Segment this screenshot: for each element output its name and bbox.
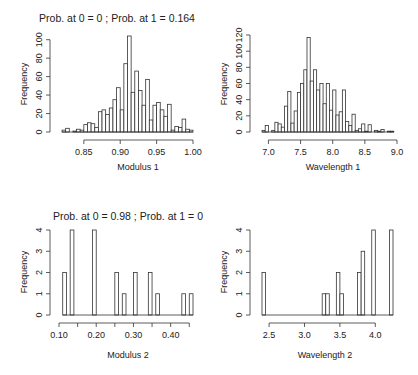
histogram-bar [133,273,137,316]
histogram-bar [146,79,150,132]
x-axis-label: Modulus 1 [117,162,159,172]
y-tick-label: 0 [34,129,44,134]
histogram-bar [352,114,355,132]
histogram-bar [294,111,297,132]
histogram-bar [323,104,326,132]
histogram-bar [113,100,117,132]
histogram-bar [138,90,142,132]
histogram-bar [63,273,67,316]
y-tick-label: 4 [234,227,244,232]
x-axis-label: Modulus 2 [107,350,149,360]
y-tick-label: 80 [234,62,244,72]
histogram-bar [333,90,336,132]
histogram-bar [339,112,342,132]
histogram-bar [77,129,81,132]
histogram-bar [313,70,316,132]
y-axis-label: Frequency [219,250,229,293]
histogram-bar [326,84,329,133]
y-tick-label: 0 [34,312,44,317]
histogram-bar [285,106,288,132]
histogram-bar [358,273,362,316]
x-axis-label: Wavelength 1 [306,162,361,172]
x-tick-label: 1.00 [184,147,202,157]
y-axis: 01234 [34,227,50,317]
histogram-bar [182,294,186,315]
y-tick-label: 120 [234,27,244,42]
histogram-bar [128,36,132,132]
histogram-bar [322,294,326,315]
histogram-modulus-2: Prob. at 0 = 0.98 ; Prob. at 1 = 0 0.100… [0,188,209,375]
histogram-bar [124,64,128,132]
x-tick-label: 0.40 [162,330,180,340]
histogram-bar [265,126,268,132]
x-tick-label: 0.20 [87,330,105,340]
y-tick-label: 100 [34,32,44,47]
x-tick-label: 8.0 [326,147,339,157]
histogram-bar [326,294,330,315]
histogram-bar [175,126,179,132]
x-tick-label: 2.5 [263,330,276,340]
histogram-bar [288,92,291,132]
x-tick-label: 0.90 [111,147,129,157]
histogram-bar [304,70,307,132]
y-axis-label: Frequency [19,250,29,293]
x-tick-label: 0.95 [148,147,166,157]
histogram-bar [142,105,146,132]
histogram-bar [310,81,313,132]
y-tick-label: 60 [234,78,244,88]
y-tick-label: 4 [34,227,44,232]
histogram-bar [131,92,135,132]
histogram-bar [186,129,190,132]
x-tick-label: 0.10 [50,330,68,340]
y-axis-label: Frequency [19,62,29,105]
histogram-bar [115,273,119,316]
x-tick-label: 8.5 [359,147,372,157]
histogram-bar [98,112,102,132]
histogram-bar [368,125,371,132]
histogram-bar [160,110,164,132]
x-tick-label: 7.0 [262,147,275,157]
histogram-bar [336,115,339,132]
histogram-modulus-1: Prob. at 0 = 0 ; Prob. at 1 = 0.164 0.85… [0,0,209,187]
histogram-plot: Prob. at 0 = 0.98 ; Prob. at 1 = 0 0.100… [0,188,209,375]
y-tick-label: 2 [34,270,44,275]
y-tick-label: 1 [34,291,44,296]
histogram-bar [307,37,310,132]
x-tick-label: 0.85 [75,147,93,157]
histogram-bar [349,126,352,132]
histogram-bar [372,230,376,315]
x-tick-label: 7.5 [294,147,307,157]
histogram-bar [148,273,152,316]
histogram-bar [66,128,70,132]
y-tick-label: 40 [34,90,44,100]
y-axis-label: Frequency [219,62,229,105]
histogram-plot: 7.07.58.08.59.0 020406080100120 Waveleng… [209,0,418,187]
histogram-plot: 2.53.03.54.0 01234 Wavelength 2 Frequenc… [209,188,418,375]
y-tick-label: 60 [34,72,44,82]
bars [62,36,193,132]
histogram-bar [157,102,161,132]
histogram-bar [278,124,281,132]
histogram-bar [109,108,113,132]
y-axis: 01234 [234,227,250,317]
histogram-bar [168,104,172,132]
histogram-bar [182,119,186,132]
histogram-bar [120,110,124,132]
plot-title: Prob. at 0 = 0.98 ; Prob. at 1 = 0 [53,210,203,222]
histogram-bar [153,105,157,132]
histogram-bar [317,90,320,132]
histogram-bar [93,230,97,315]
histogram-bar [275,122,278,132]
bars [262,230,393,315]
y-tick-label: 3 [34,249,44,254]
y-tick-label: 100 [234,44,244,59]
histogram-bar [189,294,193,315]
histogram-bar [320,84,323,133]
histogram-bar [330,110,333,132]
bars [262,37,394,132]
x-tick-label: 4.0 [369,330,382,340]
histogram-bar [117,88,121,132]
x-axis: 0.850.900.951.00 [75,140,202,157]
y-tick-label: 0 [234,312,244,317]
x-tick-label: 3.5 [334,330,347,340]
